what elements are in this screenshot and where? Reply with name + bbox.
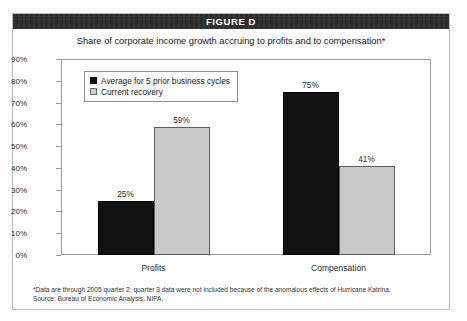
bar-value-label: 25% <box>117 190 133 199</box>
y-axis-tick-mark <box>56 255 61 256</box>
bar-compensation-series2 <box>339 166 395 255</box>
y-axis-tick-label: 40% <box>0 163 27 172</box>
legend-swatch-light-icon <box>90 88 97 95</box>
y-axis-tick-label: 70% <box>0 98 27 107</box>
figure-banner-label: FIGURE D <box>206 16 256 27</box>
bar-chart: 0%10%20%30%40%50%60%70%80%90% Average fo… <box>13 54 451 279</box>
legend-swatch-dark-icon <box>90 77 97 84</box>
scanned-page: FIGURE D Share of corporate income growt… <box>0 0 467 321</box>
figure-container: FIGURE D Share of corporate income growt… <box>12 13 450 310</box>
figure-footnotes: *Data are through 2005 quarter 2; quarte… <box>33 285 437 303</box>
bar-compensation-series1 <box>283 92 339 255</box>
legend-item-average: Average for 5 prior business cycles <box>90 75 230 86</box>
chart-legend: Average for 5 prior business cycles Curr… <box>84 71 238 102</box>
y-axis-tick-label: 80% <box>0 76 27 85</box>
y-axis-tick-label: 90% <box>0 55 27 64</box>
legend-label-average: Average for 5 prior business cycles <box>101 76 230 86</box>
bar-value-label: 59% <box>173 116 189 125</box>
bar-profits-series2 <box>154 127 210 255</box>
legend-label-current: Current recovery <box>101 87 163 97</box>
legend-item-current: Current recovery <box>90 86 230 97</box>
figure-subtitle: Share of corporate income growth accruin… <box>13 36 449 46</box>
x-axis-category-label: Compensation <box>311 263 366 273</box>
x-axis-category-label: Profits <box>141 263 165 273</box>
y-axis-tick-label: 50% <box>0 142 27 151</box>
footnote-source: Source: Bureau of Economic Analysis, NIP… <box>33 294 437 303</box>
y-axis-tick-label: 20% <box>0 207 27 216</box>
y-axis-tick-label: 60% <box>0 120 27 129</box>
y-axis-tick-label: 30% <box>0 185 27 194</box>
bar-value-label: 41% <box>358 155 374 164</box>
y-axis-tick-label: 0% <box>0 251 27 260</box>
figure-banner: FIGURE D <box>13 14 449 29</box>
footnote-data-note: *Data are through 2005 quarter 2; quarte… <box>33 285 437 294</box>
bar-value-label: 75% <box>302 81 318 90</box>
y-axis-tick-label: 10% <box>0 229 27 238</box>
bar-profits-series1 <box>98 201 154 255</box>
